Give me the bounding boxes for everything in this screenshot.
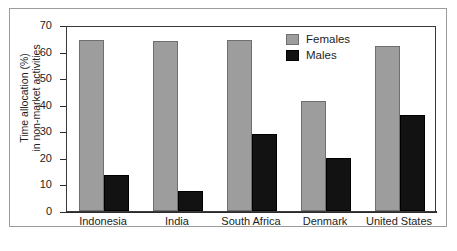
bar-united-states-females bbox=[375, 46, 400, 211]
y-tick-label: 60 bbox=[28, 47, 52, 58]
bar-india-males bbox=[178, 191, 203, 211]
y-tick-label: 40 bbox=[28, 100, 52, 111]
y-tick-label: 20 bbox=[28, 153, 52, 164]
y-tick-label-wrap: 70 bbox=[0, 20, 60, 31]
y-tick-label-wrap: 10 bbox=[0, 179, 60, 190]
bar-denmark-males bbox=[326, 158, 351, 211]
x-label-south-africa: South Africa bbox=[214, 215, 288, 228]
legend-item-females: Females bbox=[286, 32, 396, 46]
y-tick-label-wrap: 30 bbox=[0, 126, 60, 137]
y-tick-label-wrap: 40 bbox=[0, 100, 60, 111]
bar-denmark-females bbox=[301, 101, 326, 211]
x-label-india: India bbox=[140, 215, 214, 228]
legend-swatch-males-icon bbox=[286, 50, 299, 61]
y-tick-label: 0 bbox=[28, 206, 52, 217]
legend-label: Males bbox=[306, 49, 337, 61]
y-tick-label-wrap: 0 bbox=[0, 206, 60, 217]
y-tick-label: 70 bbox=[28, 20, 52, 31]
bar-united-states-males bbox=[400, 115, 425, 211]
bar-india-females bbox=[153, 41, 178, 211]
x-label-united-states: United States bbox=[362, 215, 436, 228]
y-tick-label-wrap: 60 bbox=[0, 47, 60, 58]
y-tick-label-wrap: 50 bbox=[0, 73, 60, 84]
y-tick-label: 50 bbox=[28, 73, 52, 84]
y-tick-label: 30 bbox=[28, 126, 52, 137]
x-label-indonesia: Indonesia bbox=[66, 215, 140, 228]
bar-indonesia-females bbox=[79, 40, 104, 211]
x-label-denmark: Denmark bbox=[288, 215, 362, 228]
legend-label: Females bbox=[306, 33, 350, 45]
legend-swatch-females-icon bbox=[286, 34, 299, 45]
chart-legend: FemalesMales bbox=[286, 32, 396, 64]
bar-indonesia-males bbox=[104, 175, 129, 211]
y-tick-label: 10 bbox=[28, 179, 52, 190]
legend-item-males: Males bbox=[286, 48, 396, 62]
bar-south-africa-females bbox=[227, 40, 252, 211]
chart-figure: Time allocation (%) in non-market activi… bbox=[0, 0, 457, 251]
bar-south-africa-males bbox=[252, 134, 277, 211]
y-tick-label-wrap: 20 bbox=[0, 153, 60, 164]
